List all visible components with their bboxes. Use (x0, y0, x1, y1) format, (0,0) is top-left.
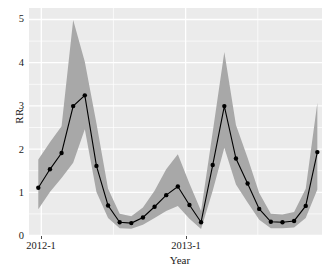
x-tick-label: 2013-1 (171, 240, 201, 251)
chart-figure: RR 0 1 2 3 4 5 (0, 0, 330, 271)
x-tick-label: 2012-1 (26, 240, 56, 251)
x-tick-mark (41, 236, 42, 239)
x-tick-mark (186, 236, 187, 239)
x-axis-ticks: 2012-1 2013-1 (0, 0, 330, 271)
x-axis-title-text: Year (170, 254, 190, 266)
x-axis-title: Year (0, 254, 330, 266)
